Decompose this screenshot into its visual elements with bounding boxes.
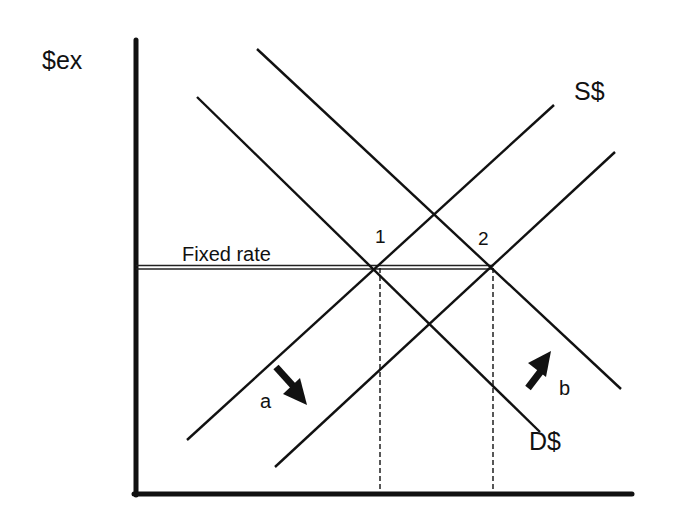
supply-curve-label: S$ <box>574 79 605 104</box>
shift-arrow-a-icon <box>276 367 307 405</box>
demand-curve-label: D$ <box>529 429 561 454</box>
supply-curve-shifted <box>275 152 615 467</box>
point-1-label: 1 <box>375 227 386 246</box>
fixed-rate-label: Fixed rate <box>182 244 271 264</box>
demand-curve-shifted <box>257 49 621 389</box>
shift-a-label: a <box>260 391 271 411</box>
y-axis-label: $ex <box>42 48 82 73</box>
shift-arrow-b-icon <box>528 351 551 388</box>
shift-b-label: b <box>559 378 570 398</box>
point-2-label: 2 <box>478 229 489 248</box>
